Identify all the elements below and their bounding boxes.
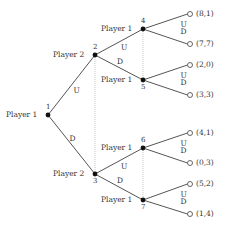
player-label: Player 1 (101, 76, 132, 84)
player-label: Player 1 (101, 25, 132, 33)
decision-node-dot (141, 146, 146, 151)
node-number: 2 (93, 44, 97, 51)
decision-node-dot (141, 78, 146, 83)
node-number: 6 (141, 137, 145, 144)
decision-node-dot (93, 53, 98, 58)
decision-node-dot (141, 198, 146, 203)
payoff-label: (7,7) (196, 40, 214, 48)
payoff-label: (3,3) (196, 91, 214, 99)
action-label-d: D (181, 147, 187, 155)
action-label-d: D (181, 198, 187, 206)
player-label: Player 2 (53, 170, 84, 178)
terminal-node-circle (188, 161, 193, 166)
action-label-u: U (121, 163, 127, 171)
terminal-node-circle (188, 182, 193, 187)
player-label: Player 1 (101, 144, 132, 152)
node-number: 1 (46, 104, 50, 111)
node-number: 4 (141, 18, 145, 25)
player-label: Player 1 (101, 196, 132, 204)
decision-node-dot (141, 27, 146, 32)
player-label: Player 2 (53, 51, 84, 59)
decision-node-dot (93, 172, 98, 177)
terminal-node-circle (188, 12, 193, 17)
payoff-label: (0,3) (196, 159, 214, 167)
payoff-label: (2,0) (196, 61, 214, 69)
edge-1-2 (48, 55, 95, 115)
node-number: 3 (93, 178, 97, 185)
action-label-d: D (181, 79, 187, 87)
player-label: Player 1 (6, 111, 37, 119)
action-label-d: D (117, 58, 123, 66)
action-label-d: D (117, 177, 123, 185)
terminal-node-circle (188, 93, 193, 98)
action-label-d: D (70, 135, 76, 143)
payoff-label: (5,2) (196, 180, 214, 188)
terminal-node-circle (188, 131, 193, 136)
node-number: 7 (141, 204, 145, 211)
payoff-label: (1,4) (196, 210, 214, 218)
action-label-d: D (181, 28, 187, 36)
terminal-nodes (143, 12, 193, 217)
edge-1-3 (48, 115, 95, 174)
information-set-lines (95, 29, 143, 200)
terminal-node-circle (188, 42, 193, 47)
action-label-u: U (121, 44, 127, 52)
terminal-node-circle (188, 212, 193, 217)
node-number: 5 (141, 84, 145, 91)
payoff-label: (8,1) (196, 10, 214, 18)
action-label-u: U (74, 87, 80, 95)
payoff-label: (4,1) (196, 129, 214, 137)
decision-node-dot (46, 113, 51, 118)
terminal-node-circle (188, 63, 193, 68)
